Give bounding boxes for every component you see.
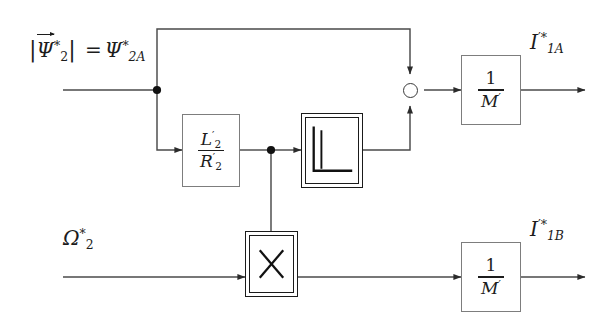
time-constant-label: L′2 R′2 [198,131,224,171]
branch-node-flux [153,86,161,94]
gain-block-b: 1 M′ [461,242,521,312]
derivative-block [301,113,363,188]
multiply-icon [250,236,293,292]
step-derivative-icon [306,118,358,183]
gain-block-b-label: 1 M′ [478,257,504,297]
gain-block-a: 1 M′ [461,55,521,125]
multiplier-block [245,231,298,297]
speed-reference-input-label: Ω*2 [63,228,94,249]
current-output-b-label: I′*1B [530,219,564,240]
flux-reference-input-label: |Ψ*2| =Ψ*2A [29,38,145,62]
time-constant-block: L′2 R′2 [182,114,240,187]
block-diagram: L′2 R′2 1 M′ [0,0,607,316]
wire-derivative-feedback [363,106,410,150]
gain-block-a-label: 1 M′ [478,70,504,110]
current-output-a-label: I′*1A [530,32,564,53]
wire-feedforward-top [157,29,410,90]
sum-junction [403,83,418,98]
branch-node-time-constant [267,146,275,154]
wire-to-time-constant [157,90,182,150]
